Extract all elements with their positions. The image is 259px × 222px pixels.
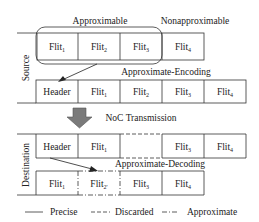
source-flit-3: Flit3 <box>133 42 149 53</box>
legend: Precise Discarded Approximate <box>25 207 237 217</box>
received-packet-row: Header Flit1 Flit3 Flit4 <box>36 134 246 158</box>
destination-label: Destination <box>21 143 31 187</box>
encoded-flit-2: Flit2 <box>133 87 149 98</box>
legend-discarded-label: Discarded <box>115 207 154 217</box>
source-flit-4: Flit4 <box>175 42 191 53</box>
encoding-arrow-line <box>62 64 97 80</box>
nonapproximable-label: Nonapproximable <box>161 16 230 26</box>
encoding-label: Approximate-Encoding <box>121 67 211 77</box>
approximable-label: Approximable <box>73 16 128 26</box>
encoded-flit-3: Flit3 <box>175 87 191 98</box>
encoded-header: Header <box>43 87 71 97</box>
source-label: Source <box>21 55 31 81</box>
decoded-flit-3: Flit3 <box>133 179 149 190</box>
received-flit-4: Flit4 <box>217 142 233 153</box>
decoded-flit-4: Flit4 <box>175 179 191 190</box>
received-header: Header <box>43 142 71 152</box>
transmission-down-arrow-icon <box>67 108 92 128</box>
encoding-arrow-head-icon <box>58 76 66 82</box>
decoded-flit-1: Flit1 <box>49 179 65 190</box>
encoded-packet-row: Header Flit1 Flit2 Flit3 Flit4 <box>36 80 246 103</box>
source-flit-2: Flit2 <box>91 42 107 53</box>
decoding-label: Approximate-Decoding <box>115 159 205 169</box>
transmission-label: NoC Transmission <box>105 113 176 123</box>
received-flit-1: Flit1 <box>91 142 107 153</box>
approximate-noc-diagram: Approximable Nonapproximable Source Flit… <box>0 0 259 222</box>
decoding-arrow-line <box>50 158 92 169</box>
legend-approximate-label: Approximate <box>187 207 237 217</box>
source-flit-1: Flit1 <box>49 42 65 53</box>
decoded-flit-2-approx: Flit2' <box>90 179 107 190</box>
source-flits-row: Flit1 Flit2 Flit3 Flit4 <box>37 33 204 60</box>
decoded-flits-row: Flit1 Flit2' Flit3 Flit4 <box>36 171 204 195</box>
legend-precise-label: Precise <box>50 207 77 217</box>
encoded-flit-1: Flit1 <box>91 87 107 98</box>
encoded-flit-4: Flit4 <box>217 87 233 98</box>
received-flit-3: Flit3 <box>175 142 191 153</box>
